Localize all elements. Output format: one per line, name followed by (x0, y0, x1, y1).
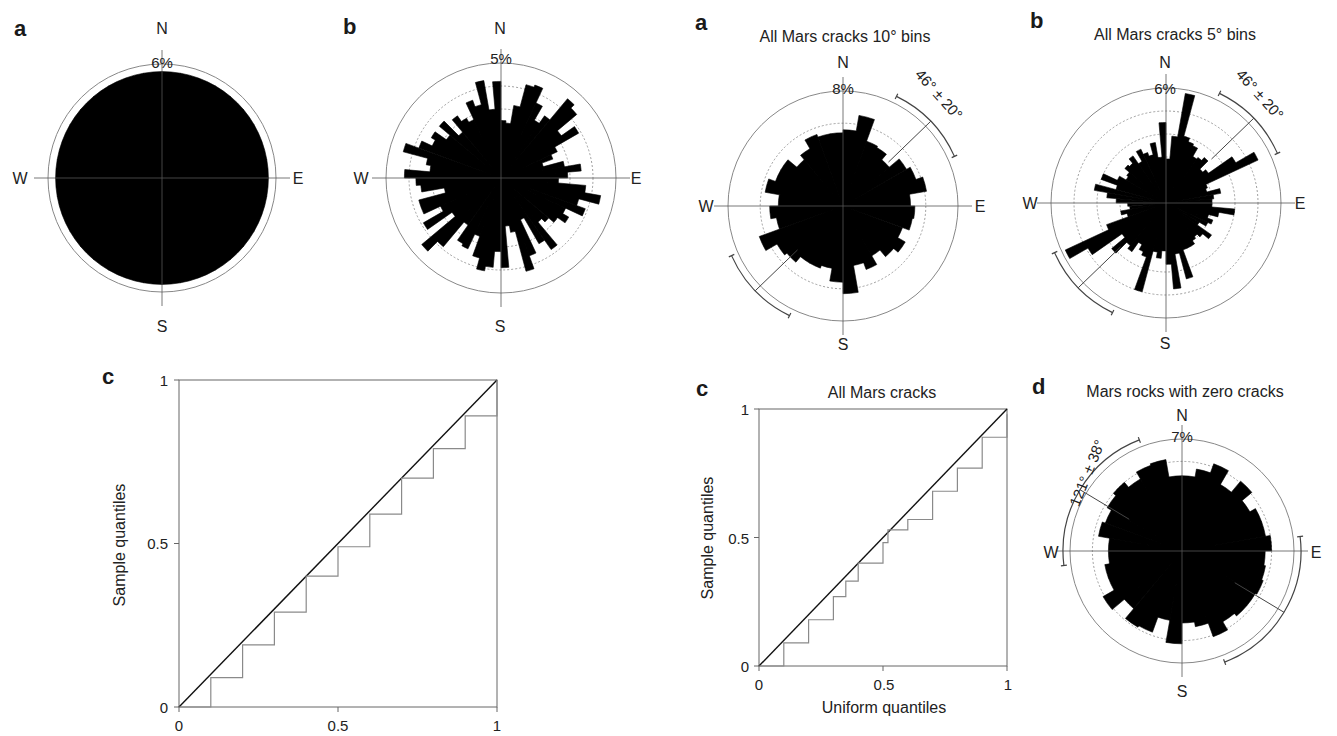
y-tick: 1 (160, 372, 168, 389)
west-label: W (1022, 195, 1038, 212)
y-tick: 0.5 (147, 535, 168, 552)
north-label: N (494, 20, 506, 37)
south-label: S (1160, 335, 1171, 352)
x-axis-label: Uniform quantiles (822, 699, 947, 716)
x-tick: 0.5 (328, 717, 349, 734)
scale-label: 6% (1154, 80, 1176, 97)
scale-label: 8% (832, 80, 854, 97)
south-label: S (157, 318, 168, 335)
panel-title: All Mars cracks 5° bins (1094, 26, 1256, 43)
west-label: W (698, 198, 714, 215)
right-panel-d-rose: d Mars rocks with zero cracks N S W E 7%… (1032, 374, 1321, 700)
panel-letter: b (343, 14, 356, 39)
rose-bars (1098, 460, 1271, 644)
x-tick: 0 (755, 676, 763, 693)
west-label: W (353, 170, 369, 187)
left-panel-a-rose: a N S W E 6% (12, 16, 303, 335)
mean-direction-line (1078, 247, 1120, 288)
east-label: E (1295, 195, 1306, 212)
east-label: E (631, 170, 642, 187)
north-label: N (1176, 407, 1188, 424)
right-panel-b-rose: b All Mars cracks 5° bins N S W E 6% 46°… (1022, 8, 1305, 352)
left-panel-b-rose: b N S W E 5% (343, 14, 641, 335)
east-label: E (293, 170, 304, 187)
scale-label: 6% (151, 54, 173, 71)
north-label: N (837, 54, 849, 71)
mean-direction-line (1211, 118, 1253, 159)
east-label: E (975, 198, 986, 215)
x-tick: 0.5 (874, 676, 895, 693)
west-label: W (1043, 544, 1059, 561)
reference-line (179, 380, 497, 707)
south-label: S (495, 318, 506, 335)
west-label: W (12, 170, 28, 187)
x-tick: 0 (175, 717, 183, 734)
east-label: E (1311, 544, 1322, 561)
scale-label: 7% (1171, 428, 1193, 445)
y-tick: 0.5 (728, 530, 749, 547)
south-label: S (838, 336, 849, 353)
figure-canvas: a N S W E 6% b N S W E 5% c 0 0.5 1 0 0.… (0, 0, 1337, 736)
reference-line (759, 409, 1007, 666)
north-label: N (1159, 54, 1171, 71)
arc-end-tick (1061, 565, 1067, 566)
x-tick: 1 (493, 717, 501, 734)
rose-bars (1065, 94, 1258, 292)
y-tick: 0 (741, 658, 749, 675)
y-axis-label: Sample quantiles (699, 477, 716, 600)
panel-letter: b (1030, 8, 1043, 33)
scale-label: 5% (490, 50, 512, 67)
mean-direction-label: 46° ± 20° (1233, 66, 1287, 123)
arc-end-tick (1297, 536, 1303, 537)
north-label: N (156, 20, 168, 37)
panel-letter: a (695, 10, 708, 35)
y-tick: 0 (160, 699, 168, 716)
y-tick: 1 (741, 401, 749, 418)
y-axis-label: Sample quantiles (111, 484, 128, 607)
left-panel-c-qq-plot: c 0 0.5 1 0 0.5 1 Sample quantiles (102, 364, 501, 734)
x-tick: 1 (1004, 676, 1012, 693)
panel-letter: c (696, 376, 708, 401)
panel-letter: c (102, 364, 114, 389)
panel-letter: d (1032, 374, 1045, 399)
panel-title: All Mars cracks (828, 384, 936, 401)
right-panel-a-rose: a All Mars cracks 10° bins N S W E 8% 46… (695, 10, 985, 353)
panel-title: All Mars cracks 10° bins (760, 28, 931, 45)
south-label: S (1177, 683, 1188, 700)
panel-title: Mars rocks with zero cracks (1086, 383, 1283, 400)
right-panel-c-qq-plot: c All Mars cracks 0 0.5 1 0 0.5 1 Unifor… (696, 376, 1012, 716)
panel-letter: a (14, 16, 27, 41)
mean-direction-label: 46° ± 20° (912, 66, 966, 123)
